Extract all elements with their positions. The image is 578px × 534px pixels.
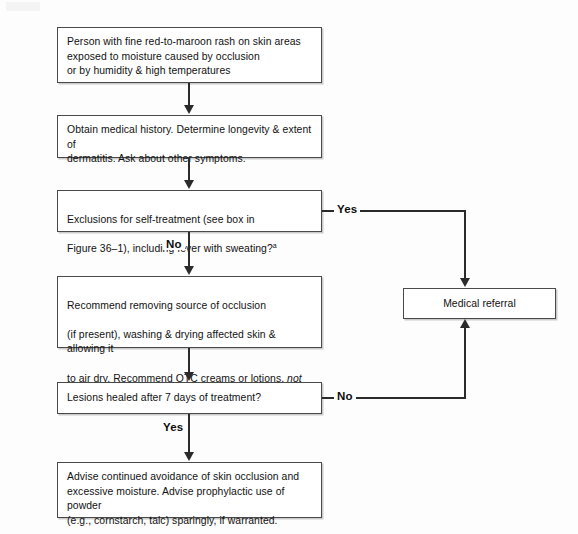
flowchart-node-advise-label: Advise continued avoidance of skin occlu… bbox=[67, 470, 315, 528]
flowchart-node-referral-label: Medical referral bbox=[404, 297, 555, 312]
arrowhead-recommend-to-healed bbox=[184, 372, 194, 381]
connector-history-to-exclusions bbox=[188, 158, 190, 182]
flowchart-node-healed: Lesions healed after 7 days of treatment… bbox=[57, 382, 322, 414]
footnote-marker-a: a bbox=[273, 241, 277, 248]
branch-label-healed-no: No bbox=[334, 390, 356, 402]
flowchart-node-recommend-line1: Recommend removing source of occlusion bbox=[67, 300, 266, 311]
arrowhead-assessment-to-history bbox=[184, 105, 194, 114]
arrowhead-healed-no-to-referral bbox=[460, 319, 470, 328]
connector-healed-yes-vertical bbox=[188, 414, 190, 454]
connector-recommend-to-healed bbox=[188, 348, 190, 374]
connector-healed-no-vertical bbox=[464, 327, 466, 397]
connector-exclusions-no-vertical bbox=[188, 232, 190, 268]
connector-assessment-to-history bbox=[188, 83, 190, 107]
flowchart-canvas: Person with fine red-to-maroon rash on s… bbox=[0, 0, 578, 534]
branch-label-healed-yes: Yes bbox=[160, 421, 186, 433]
flowchart-node-recommend-line2: (if present), washing & drying affected … bbox=[67, 329, 276, 355]
flowchart-node-history: Obtain medical history. Determine longev… bbox=[57, 115, 322, 158]
flowchart-node-assessment: Person with fine red-to-maroon rash on s… bbox=[57, 27, 322, 83]
scan-artifact bbox=[6, 2, 40, 11]
connector-exclusions-yes-vertical bbox=[464, 210, 466, 280]
arrowhead-healed-to-advise bbox=[184, 452, 194, 461]
branch-label-exclusions-no: No bbox=[163, 238, 185, 250]
flowchart-node-referral: Medical referral bbox=[403, 288, 556, 319]
arrowhead-exclusions-yes-to-referral bbox=[460, 278, 470, 287]
flowchart-node-exclusions-line1: Exclusions for self-treatment (see box i… bbox=[67, 214, 255, 225]
branch-label-exclusions-yes: Yes bbox=[334, 203, 360, 215]
flowchart-node-exclusions: Exclusions for self-treatment (see box i… bbox=[57, 190, 322, 232]
flowchart-node-healed-label: Lesions healed after 7 days of treatment… bbox=[67, 391, 315, 406]
flowchart-node-exclusions-label: Exclusions for self-treatment (see box i… bbox=[67, 198, 315, 256]
flowchart-node-recommend: Recommend removing source of occlusion (… bbox=[57, 276, 322, 348]
flowchart-node-advise: Advise continued avoidance of skin occlu… bbox=[57, 462, 322, 518]
flowchart-node-assessment-label: Person with fine red-to-maroon rash on s… bbox=[67, 35, 315, 79]
arrowhead-history-to-exclusions bbox=[184, 180, 194, 189]
flowchart-node-history-label: Obtain medical history. Determine longev… bbox=[67, 123, 315, 167]
arrowhead-exclusions-to-recommend bbox=[184, 266, 194, 275]
